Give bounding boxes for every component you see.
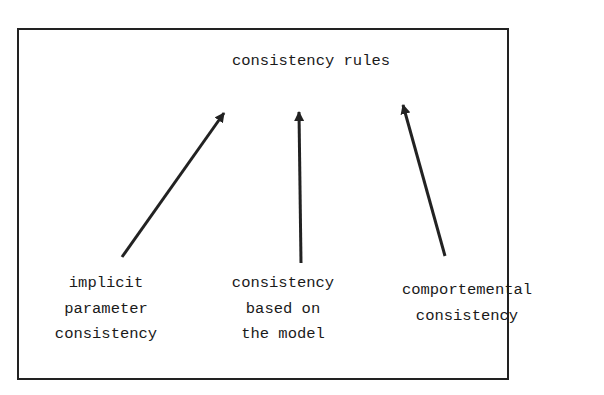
node-label-line: consistency — [402, 304, 532, 330]
node-label-line: comportemental — [402, 278, 532, 304]
node-implicit-parameter-consistency: implicit parameter consistency — [55, 271, 157, 348]
node-label-line: implicit — [55, 271, 157, 297]
node-label-line: parameter — [55, 297, 157, 323]
node-label-line: consistency — [232, 271, 334, 297]
arrow-icon — [299, 112, 301, 263]
arrow-icon — [403, 105, 445, 256]
node-label-line: the model — [232, 322, 334, 348]
node-consistency-based-on-model: consistency based on the model — [232, 271, 334, 348]
node-label-line: based on — [232, 297, 334, 323]
arrow-icon — [122, 113, 224, 257]
node-label-line: consistency — [55, 322, 157, 348]
node-comportemental-consistency: comportemental consistency — [402, 278, 532, 329]
